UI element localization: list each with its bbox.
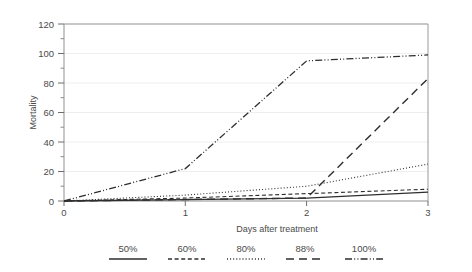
- y-tick-label-0: 0: [49, 196, 54, 207]
- x-tick-label-3: 3: [425, 207, 430, 218]
- x-tick-label-2: 2: [304, 207, 309, 218]
- mortality-line-chart: 120 100 80 60 40 20 0 Mortality 0 1 2 3 …: [0, 0, 472, 272]
- legend-label-80pct[interactable]: 80%: [236, 243, 256, 254]
- y-tick-label-120: 120: [38, 19, 54, 30]
- y-tick-label-100: 100: [38, 48, 54, 59]
- y-tick-label-40: 40: [43, 137, 54, 148]
- legend-label-50pct[interactable]: 50%: [118, 243, 138, 254]
- x-axis-title: Days after treatment: [236, 224, 318, 234]
- y-tick-label-60: 60: [43, 107, 54, 118]
- x-tick-label-0: 0: [61, 207, 66, 218]
- x-tick-label-1: 1: [183, 207, 188, 218]
- y-tick-label-20: 20: [43, 166, 54, 177]
- y-axis-title: Mortality: [28, 95, 38, 130]
- legend-label-100pct[interactable]: 100%: [352, 243, 377, 254]
- legend-label-88pct[interactable]: 88%: [295, 243, 315, 254]
- legend-label-60pct[interactable]: 60%: [177, 243, 197, 254]
- y-tick-label-80: 80: [43, 78, 54, 89]
